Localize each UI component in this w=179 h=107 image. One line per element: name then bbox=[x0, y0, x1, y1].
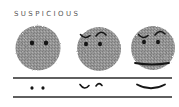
face-eyes-brows bbox=[77, 27, 121, 71]
brow-arch-icon bbox=[96, 84, 102, 86]
left-eye-icon bbox=[30, 41, 34, 46]
strip-mouth bbox=[137, 85, 165, 89]
brow-v-icon bbox=[80, 85, 89, 89]
right-eye-icon bbox=[44, 41, 48, 46]
right-eye-icon bbox=[156, 40, 160, 44]
face-eyes-only bbox=[16, 26, 61, 71]
right-eye-icon bbox=[98, 42, 102, 46]
left-eye-icon bbox=[84, 42, 88, 46]
mouth-line-icon bbox=[137, 85, 165, 89]
eye-dot-icon bbox=[30, 86, 33, 90]
face-eyes-brows-mouth bbox=[131, 26, 175, 70]
eye-dot-icon bbox=[41, 86, 44, 90]
faces-diagram bbox=[0, 0, 179, 107]
face-circle bbox=[16, 26, 61, 71]
strip-eyes bbox=[30, 86, 44, 90]
left-eye-icon bbox=[142, 40, 146, 44]
strip-brows bbox=[80, 84, 102, 88]
